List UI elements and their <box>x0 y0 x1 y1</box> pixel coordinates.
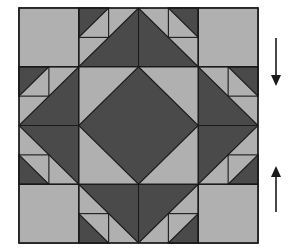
quilt-block-canvas <box>0 0 295 252</box>
diagram-root <box>0 0 295 252</box>
corner-unit-bottom-right <box>198 184 258 243</box>
quilt-block <box>19 8 258 243</box>
corner-unit-bottom-left <box>19 184 79 243</box>
corner-unit-top-right <box>198 8 258 67</box>
corner-unit-top-left <box>19 8 79 67</box>
